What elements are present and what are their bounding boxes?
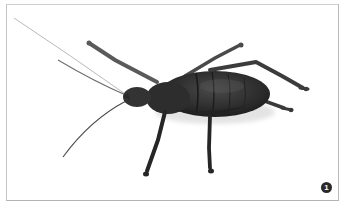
figure-number-badge: 1 bbox=[321, 182, 332, 193]
front-leg-lower bbox=[143, 112, 165, 177]
insect-photo bbox=[0, 0, 343, 205]
antennae bbox=[14, 18, 128, 157]
front-leg-upper bbox=[87, 41, 158, 83]
middle-leg-lower bbox=[208, 116, 214, 174]
